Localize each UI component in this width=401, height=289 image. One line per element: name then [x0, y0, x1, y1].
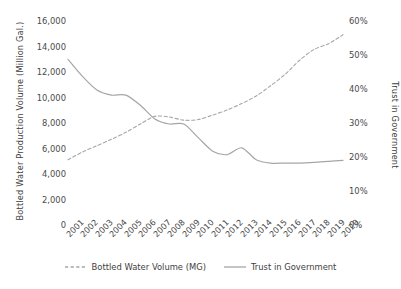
legend-swatch-dashed-line-icon — [65, 263, 87, 271]
legend-item[interactable]: Trust in Government — [224, 262, 336, 272]
x-axis-ticks: 2001200220032004200520062007200820092010… — [0, 0, 401, 289]
legend-item-label: Trust in Government — [251, 262, 336, 272]
dual-axis-line-chart: Bottled Water Production Volume (Million… — [0, 0, 401, 289]
legend-item-label: Bottled Water Volume (MG) — [92, 262, 206, 272]
legend-item[interactable]: Bottled Water Volume (MG) — [65, 262, 206, 272]
legend-swatch-solid-line-icon — [224, 263, 246, 271]
chart-legend: Bottled Water Volume (MG)Trust in Govern… — [0, 262, 401, 272]
